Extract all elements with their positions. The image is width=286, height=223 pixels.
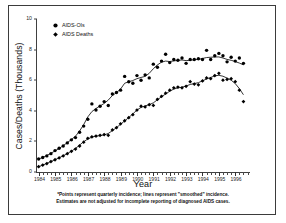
data-point xyxy=(234,59,237,62)
data-point xyxy=(57,147,60,150)
data-point xyxy=(205,49,208,52)
data-point xyxy=(53,149,56,152)
data-point xyxy=(152,62,155,65)
diamond-marker-icon xyxy=(53,32,58,37)
data-point xyxy=(184,84,188,88)
data-point xyxy=(45,154,48,157)
data-point xyxy=(74,136,77,139)
data-point xyxy=(233,80,237,84)
data-point xyxy=(221,78,225,82)
data-point xyxy=(131,113,135,117)
y-axis-tick-label: 4 xyxy=(29,108,32,113)
x-axis-tick-minor xyxy=(112,172,113,175)
x-axis-tick-minor xyxy=(92,172,93,175)
x-axis-tick-minor xyxy=(67,172,68,175)
data-point xyxy=(115,91,118,94)
x-axis-tick-minor xyxy=(76,172,77,175)
chart-canvas xyxy=(37,19,250,172)
data-point xyxy=(131,82,134,85)
y-axis-tick-label: 10 xyxy=(26,16,32,21)
x-axis-tick-minor xyxy=(100,172,101,175)
data-point xyxy=(242,62,245,65)
x-axis-tick-minor xyxy=(47,172,48,175)
data-point xyxy=(65,152,69,156)
x-axis-tick-minor xyxy=(43,172,44,175)
data-point xyxy=(213,74,217,78)
y-axis-tick xyxy=(34,19,37,20)
data-point xyxy=(221,54,224,57)
data-point xyxy=(107,104,110,107)
x-axis-tick-minor xyxy=(248,172,249,175)
figure-container: Cases/Deaths (Thousands) 024681019841985… xyxy=(0,0,286,223)
data-point xyxy=(86,118,89,121)
x-axis-tick-minor xyxy=(108,172,109,175)
data-point xyxy=(180,56,183,59)
data-point xyxy=(164,53,167,56)
legend: AIDS-OIs AIDS Deaths xyxy=(53,23,93,37)
data-point xyxy=(196,83,200,87)
x-axis-tick-minor xyxy=(198,172,199,175)
legend-item-aids-ois: AIDS-OIs xyxy=(53,23,93,28)
legend-label-aids-ois: AIDS-OIs xyxy=(62,23,85,28)
data-point xyxy=(90,102,93,105)
data-point xyxy=(61,154,65,158)
x-axis-tick-minor xyxy=(190,172,191,175)
data-point xyxy=(70,138,73,141)
data-point xyxy=(217,52,220,55)
data-point xyxy=(135,74,138,77)
x-axis-tick-minor xyxy=(63,172,64,175)
y-axis-tick xyxy=(34,110,37,111)
data-point xyxy=(238,56,241,59)
x-axis-tick-minor xyxy=(178,172,179,175)
x-axis-tick-minor xyxy=(194,172,195,175)
circle-marker-icon xyxy=(53,23,58,28)
data-point xyxy=(53,158,57,162)
data-point xyxy=(229,77,233,81)
x-axis-tick-minor xyxy=(239,172,240,175)
data-point xyxy=(57,156,61,160)
x-axis-tick-minor xyxy=(231,172,232,175)
data-point xyxy=(168,88,172,92)
legend-item-aids-deaths: AIDS Deaths xyxy=(53,32,93,37)
x-axis-tick-minor xyxy=(133,172,134,175)
data-point xyxy=(176,59,179,62)
data-point xyxy=(201,58,204,61)
data-point xyxy=(148,76,151,79)
footnote-line-2: Estimates are not adjusted for incomplet… xyxy=(14,198,272,205)
data-point xyxy=(189,58,192,61)
data-point xyxy=(197,57,200,60)
data-point xyxy=(242,100,246,104)
x-axis-tick-minor xyxy=(223,172,224,175)
data-point xyxy=(225,60,228,63)
x-axis-tick-minor xyxy=(59,172,60,175)
y-axis-tick xyxy=(34,172,37,173)
data-point xyxy=(201,79,205,83)
data-point xyxy=(127,80,130,83)
data-point xyxy=(139,104,143,108)
data-point xyxy=(94,134,98,138)
data-point xyxy=(94,108,97,111)
plot-area: 0246810198419851986198719881989199019911… xyxy=(36,19,250,173)
x-axis-tick-minor xyxy=(80,172,81,175)
data-point xyxy=(82,124,85,127)
x-axis-tick-minor xyxy=(157,172,158,175)
x-axis-tick-minor xyxy=(84,172,85,175)
footnote-line-1: *Points represent quarterly incidence; l… xyxy=(14,191,272,198)
x-axis-tick-minor xyxy=(149,172,150,175)
y-axis-label: Cases/Deaths (Thousands) xyxy=(13,19,25,173)
data-point xyxy=(78,144,82,148)
x-axis-tick-minor xyxy=(215,172,216,175)
data-point xyxy=(217,71,221,75)
data-point xyxy=(184,62,187,65)
x-axis-tick-minor xyxy=(141,172,142,175)
data-point xyxy=(237,88,241,92)
x-axis-tick-minor xyxy=(243,172,244,175)
x-axis-tick-minor xyxy=(162,172,163,175)
y-axis-tick-label: 8 xyxy=(29,47,32,52)
data-point xyxy=(156,66,159,69)
data-point xyxy=(49,152,52,155)
data-point xyxy=(102,100,105,103)
data-point xyxy=(98,133,102,137)
data-point xyxy=(209,58,212,61)
data-point xyxy=(225,78,229,82)
